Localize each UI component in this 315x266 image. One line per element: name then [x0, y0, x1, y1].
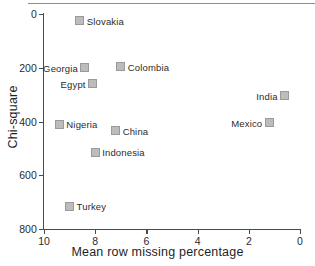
y-axis-tick-label: 600	[19, 169, 37, 181]
scatter-plot-area: 02004006008001086420SlovakiaGeorgiaColom…	[44, 14, 300, 229]
data-point-marker[interactable]	[265, 118, 274, 127]
y-axis-tick-label: 800	[19, 223, 37, 235]
y-axis-tick	[39, 14, 44, 15]
data-point-label: Georgia	[43, 62, 78, 73]
x-axis-line	[43, 229, 301, 230]
data-point-label: Nigeria	[66, 119, 97, 130]
data-point-label: Turkey	[77, 201, 107, 212]
y-axis-tick-label: 200	[19, 62, 37, 74]
x-axis-title: Mean row missing percentage	[0, 245, 315, 259]
data-point-label: China	[123, 125, 149, 136]
x-axis-tick	[300, 229, 301, 234]
data-point-label: India	[256, 90, 277, 101]
x-axis-tick	[249, 229, 250, 234]
y-axis-tick-label: 400	[19, 116, 37, 128]
y-axis-tick	[39, 175, 44, 176]
data-point-marker[interactable]	[75, 16, 84, 25]
x-axis-tick	[44, 229, 45, 234]
data-point-marker[interactable]	[55, 120, 64, 129]
y-axis-title: Chi-square	[6, 57, 20, 177]
x-axis-tick	[95, 229, 96, 234]
data-point-marker[interactable]	[65, 202, 74, 211]
data-point-marker[interactable]	[88, 79, 97, 88]
data-point-label: Egypt	[61, 78, 86, 89]
data-point-label: Indonesia	[102, 147, 145, 158]
data-point-marker[interactable]	[280, 91, 289, 100]
data-point-label: Slovakia	[87, 15, 124, 26]
data-point-label: Colombia	[128, 61, 169, 72]
y-axis-tick	[39, 122, 44, 123]
y-axis-tick-label: 0	[31, 8, 37, 20]
x-axis-tick	[146, 229, 147, 234]
data-point-marker[interactable]	[116, 62, 125, 71]
x-axis-tick	[198, 229, 199, 234]
data-point-label: Mexico	[231, 117, 262, 128]
data-point-marker[interactable]	[91, 148, 100, 157]
top-horizontal-rule	[28, 3, 315, 4]
data-point-marker[interactable]	[80, 63, 89, 72]
data-point-marker[interactable]	[111, 126, 120, 135]
